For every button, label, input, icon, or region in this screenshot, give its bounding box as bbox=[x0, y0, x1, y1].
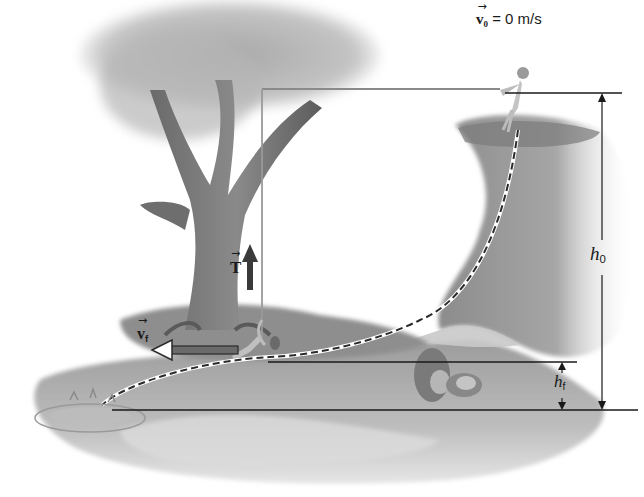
h0-label: h0 bbox=[590, 243, 606, 265]
tension-arrow bbox=[242, 244, 258, 290]
v0-label: →v0 = 0 m/s bbox=[476, 10, 542, 29]
rope-swing-diagram: →v0 = 0 m/s →T →vf h0 hf bbox=[0, 0, 644, 497]
tree bbox=[80, 0, 380, 335]
diagram-canvas bbox=[0, 0, 644, 497]
tension-label: →T bbox=[230, 258, 241, 278]
vf-label: →vf bbox=[137, 325, 148, 344]
hf-label: hf bbox=[554, 372, 565, 392]
cliff bbox=[410, 115, 635, 357]
